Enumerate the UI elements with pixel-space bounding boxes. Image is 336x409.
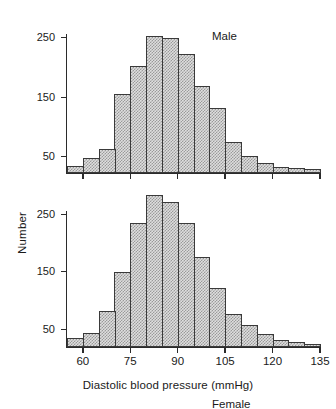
histogram-bar xyxy=(130,223,147,347)
histogram-bar xyxy=(83,333,100,347)
histogram-bar xyxy=(130,66,147,173)
histogram-bar xyxy=(241,156,258,173)
y-tick-male-150 xyxy=(61,97,66,98)
x-tick-label-120: 120 xyxy=(256,356,290,368)
histogram-bar xyxy=(194,257,211,347)
y-tick-label-female-250: 250 xyxy=(25,209,55,220)
histogram-bar xyxy=(194,86,211,173)
x-tick-label-60: 60 xyxy=(66,356,100,368)
x-tick-female-105 xyxy=(224,348,225,353)
x-tick-female-60 xyxy=(82,348,83,353)
histogram-bar xyxy=(257,334,274,347)
histogram-bar xyxy=(288,168,305,173)
plot-area-female: 50150250607590105120135 xyxy=(0,192,336,364)
histogram-bar xyxy=(83,158,100,173)
histogram-bar xyxy=(257,163,274,173)
histogram-bar xyxy=(225,314,242,347)
x-tick-label-135: 135 xyxy=(303,356,336,368)
histogram-bar xyxy=(162,38,179,173)
x-tick-label-105: 105 xyxy=(208,356,242,368)
histogram-bar xyxy=(146,195,163,347)
x-tick-female-90 xyxy=(177,348,178,353)
y-tick-label-male-150: 150 xyxy=(25,92,55,103)
histogram-bar xyxy=(304,169,321,173)
y-tick-label-female-50: 50 xyxy=(25,324,55,335)
x-tick-female-75 xyxy=(130,348,131,353)
histogram-bar xyxy=(146,36,163,173)
y-tick-female-250 xyxy=(61,214,66,215)
histogram-bar xyxy=(209,108,226,173)
histogram-bar xyxy=(304,344,321,347)
histogram-bar xyxy=(162,202,179,347)
y-tick-label-female-150: 150 xyxy=(25,266,55,277)
histogram-bar xyxy=(209,288,226,347)
panel-female: 50150250607590105120135 Female xyxy=(0,192,336,364)
histogram-bar xyxy=(273,340,290,347)
histogram-bar xyxy=(241,325,258,347)
y-tick-female-150 xyxy=(61,271,66,272)
histogram-bar xyxy=(99,149,116,173)
y-tick-male-250 xyxy=(61,37,66,38)
y-tick-female-50 xyxy=(61,329,66,330)
histogram-bar xyxy=(178,54,195,173)
figure: Number 50150250 Male 5015025060759010512… xyxy=(0,0,336,409)
histogram-bar xyxy=(178,223,195,347)
y-tick-label-male-250: 250 xyxy=(25,32,55,43)
histogram-bar xyxy=(67,338,84,347)
x-axis-title: Diastolic blood pressure (mmHg) xyxy=(0,379,336,391)
histogram-bar xyxy=(225,142,242,173)
histogram-bar xyxy=(67,166,84,173)
histogram-bar xyxy=(99,311,116,347)
x-axis-line-female xyxy=(66,347,321,348)
y-tick-male-50 xyxy=(61,156,66,157)
histogram-bar xyxy=(288,342,305,347)
histogram-bar xyxy=(114,94,131,173)
histogram-bar xyxy=(273,167,290,173)
x-tick-female-135 xyxy=(319,348,320,353)
x-tick-label-75: 75 xyxy=(113,356,147,368)
x-tick-female-120 xyxy=(272,348,273,353)
x-tick-label-90: 90 xyxy=(161,356,195,368)
series-title-male: Male xyxy=(212,30,237,42)
histogram-bar xyxy=(114,272,131,347)
series-title-female: Female xyxy=(212,398,250,409)
y-tick-label-male-50: 50 xyxy=(25,151,55,162)
